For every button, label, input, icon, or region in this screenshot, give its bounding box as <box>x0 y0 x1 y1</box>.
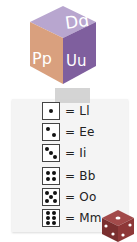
cube-left-label: Pp <box>32 49 52 68</box>
die-two-icon <box>42 123 60 141</box>
decorative-die-icon <box>101 209 135 242</box>
letter-cube-graphic: Dd Pp Uu <box>28 4 98 86</box>
legend-row-6: = Mm <box>42 208 102 227</box>
legend-row-label: = Ee <box>65 125 95 139</box>
legend-row-label: = Ii <box>65 146 87 160</box>
legend-row-3: = Ii <box>42 143 87 162</box>
legend-row-label: = Ll <box>65 104 90 118</box>
die-four-icon <box>42 167 60 185</box>
legend-row-label: = Mm <box>65 211 102 225</box>
legend-row-4: = Bb <box>42 166 96 185</box>
legend-row-label: = Bb <box>65 169 96 183</box>
letter-cube: Dd Pp Uu <box>28 4 98 86</box>
legend-row-1: = Ll <box>42 101 90 120</box>
legend-row-5: = Oo <box>42 187 96 206</box>
die-five-icon <box>42 188 60 206</box>
die-three-icon <box>42 144 60 162</box>
die-one-icon <box>42 102 60 120</box>
legend-row-2: = Ee <box>42 122 95 141</box>
cube-right-label: Uu <box>66 52 87 70</box>
legend-row-label: = Oo <box>65 190 96 204</box>
cube-top-label: Dd <box>64 10 90 33</box>
die-six-icon <box>42 209 60 227</box>
